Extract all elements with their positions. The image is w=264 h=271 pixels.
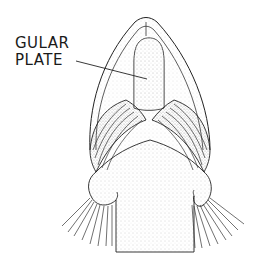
gular-label-line1: GULAR	[15, 35, 70, 51]
gular-label-line2: PLATE	[15, 52, 63, 68]
gular-plate	[134, 38, 164, 110]
